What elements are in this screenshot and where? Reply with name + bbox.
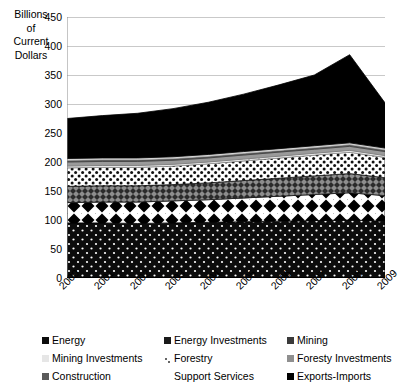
legend-swatch-icon bbox=[164, 373, 171, 380]
legend-swatch-icon bbox=[287, 337, 294, 344]
legend-swatch-icon bbox=[42, 373, 49, 380]
legend-item[interactable]: Mining Investments bbox=[42, 350, 142, 367]
y-axis-tick-label: 350 bbox=[32, 70, 62, 81]
legend-item[interactable]: Mining bbox=[287, 332, 328, 349]
legend-swatch-icon bbox=[164, 337, 171, 344]
y-axis-tick-label: 200 bbox=[32, 157, 62, 168]
legend-item-label: Forestry bbox=[174, 353, 213, 364]
legend-item-label: Support Services bbox=[174, 371, 254, 382]
y-axis-tick-label: 250 bbox=[32, 128, 62, 139]
y-axis-tick-label: 150 bbox=[32, 186, 62, 197]
legend-item-label: Construction bbox=[52, 371, 111, 382]
legend-item-label: Foresty Investments bbox=[297, 353, 392, 364]
y-axis-tick-label: 300 bbox=[32, 99, 62, 110]
legend-item-label: Energy bbox=[52, 335, 85, 346]
legend-item-label: Energy Investments bbox=[174, 335, 267, 346]
legend-item-label: Exports-Imports bbox=[297, 371, 371, 382]
y-axis-tick-label: 450 bbox=[32, 12, 62, 23]
legend-swatch-icon bbox=[287, 355, 294, 362]
plot-svg bbox=[67, 17, 385, 278]
y-axis-tick-label: 50 bbox=[32, 244, 62, 255]
legend-swatch-icon bbox=[164, 355, 171, 362]
chart-legend: EnergyEnergy InvestmentsMiningMining Inv… bbox=[42, 332, 392, 386]
legend-item-label: Mining Investments bbox=[52, 353, 142, 364]
y-axis-tick-label: 400 bbox=[32, 41, 62, 52]
legend-item-label: Mining bbox=[297, 335, 328, 346]
legend-item[interactable]: Construction bbox=[42, 368, 111, 385]
legend-swatch-icon bbox=[42, 355, 49, 362]
legend-item[interactable]: Exports-Imports bbox=[287, 368, 371, 385]
legend-item[interactable]: Forestry bbox=[164, 350, 213, 367]
legend-item[interactable]: Foresty Investments bbox=[287, 350, 392, 367]
y-axis-tick-label: 100 bbox=[32, 215, 62, 226]
legend-item[interactable]: Support Services bbox=[164, 368, 254, 385]
legend-item[interactable]: Energy Investments bbox=[164, 332, 267, 349]
plot-area bbox=[67, 17, 385, 278]
y-axis-title-line-2: of bbox=[0, 22, 62, 36]
series-band bbox=[67, 220, 385, 278]
legend-swatch-icon bbox=[287, 373, 294, 380]
legend-item[interactable]: Energy bbox=[42, 332, 85, 349]
legend-swatch-icon bbox=[42, 337, 49, 344]
